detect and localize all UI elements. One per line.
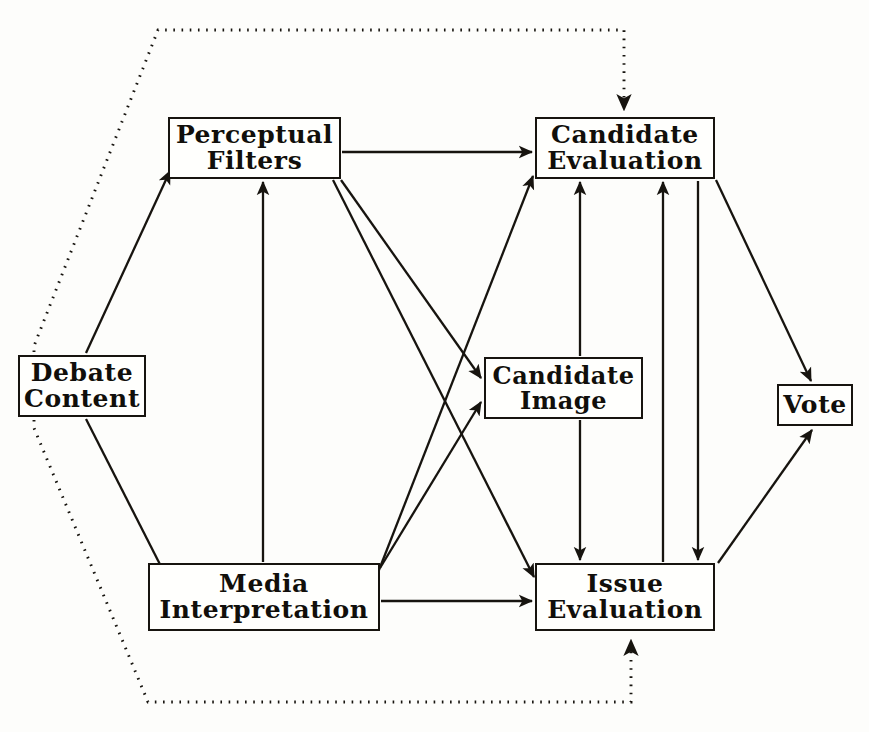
node-candidate-evaluation[interactable]: Candidate Evaluation (535, 117, 715, 179)
node-debate-content-line1: Debate (31, 360, 133, 387)
node-candidate-image-line1: Candidate (492, 363, 634, 388)
edge-debate-feedback-to-issue-evaluation (34, 420, 631, 702)
node-media-interpretation-line2: Interpretation (159, 597, 368, 624)
diagram-canvas: Debate Content Perceptual Filters Media … (0, 0, 869, 732)
node-perceptual-filters[interactable]: Perceptual Filters (168, 117, 341, 179)
node-candidate-evaluation-line2: Evaluation (547, 148, 703, 175)
node-issue-evaluation-line1: Issue (587, 571, 664, 598)
node-candidate-image-line2: Image (520, 388, 607, 413)
node-debate-content-line2: Content (24, 386, 140, 413)
node-debate-content[interactable]: Debate Content (18, 355, 146, 417)
node-media-interpretation[interactable]: Media Interpretation (148, 563, 380, 631)
edge-candidate-evaluation-to-vote (716, 180, 811, 381)
edge-debate-to-perceptual (86, 171, 170, 353)
node-candidate-image[interactable]: Candidate Image (484, 357, 643, 419)
edge-media-to-candidate-image (380, 402, 481, 568)
node-perceptual-filters-line1: Perceptual (176, 122, 333, 149)
edge-debate-feedback-to-candidate-evaluation (34, 30, 624, 352)
node-media-interpretation-line1: Media (219, 571, 309, 598)
edge-perceptual-to-candidate-image (341, 180, 481, 378)
node-vote[interactable]: Vote (777, 384, 853, 426)
node-issue-evaluation-line2: Evaluation (547, 597, 703, 624)
node-issue-evaluation[interactable]: Issue Evaluation (535, 563, 715, 631)
node-vote-line1: Vote (783, 392, 847, 419)
edge-issue-evaluation-to-vote (718, 430, 812, 563)
node-candidate-evaluation-line1: Candidate (551, 122, 699, 149)
node-perceptual-filters-line2: Filters (207, 148, 303, 175)
